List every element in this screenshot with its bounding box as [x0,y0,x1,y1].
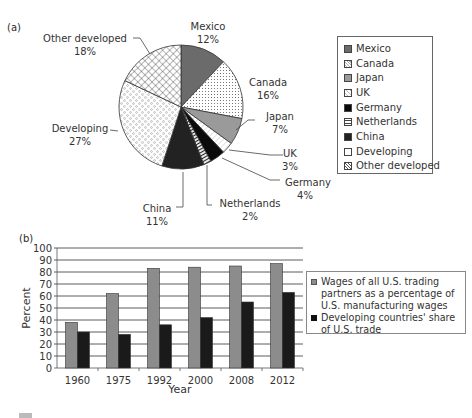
label-developing: Developing [52,123,109,134]
y-axis-label: Percent [20,287,33,329]
legend-item-china: China [344,130,385,143]
y-tick-label: 50 [39,303,52,314]
y-tick-label: 90 [39,255,52,266]
legend-item-wages: Wages of all U.S. trading partners as a … [311,276,461,312]
pct-mexico: 12% [197,34,219,45]
bar-legend: Wages of all U.S. trading partners as a … [306,271,466,334]
label-china: China [143,203,172,214]
bar-series [66,264,295,368]
legend-label: Mexico [356,43,391,54]
legend-label: Canada [356,58,394,69]
legend-item-germany: Germany [344,101,402,114]
y-tick-label: 70 [39,279,52,290]
legend-item-developing: Developing [344,145,413,158]
legend-label: Netherlands [356,116,417,127]
pct-other-developed: 18% [74,46,96,57]
label-japan: Japan [265,111,294,122]
swatch-japan [344,74,352,82]
bar-wages-2008 [230,266,242,368]
legend-item-canada: Canada [344,57,394,70]
swatch-china [344,133,352,141]
pie-slices [119,45,243,169]
label-other-developed: Other developed [43,33,127,44]
pct-netherlands: 2% [242,211,258,222]
pie-legend: Mexico Canada Japan UK Germany Netherlan… [337,36,433,174]
label-canada: Canada [249,77,287,88]
bar-developing-share-2008 [242,302,254,368]
y-tick-label: 60 [39,291,52,302]
swatch-canada [344,60,352,68]
bar-developing-share-1975 [119,334,131,368]
swatch-uk [344,89,352,97]
pct-china: 11% [146,216,168,227]
bar-developing-share-1992 [160,325,172,368]
swatch-germany [344,104,352,112]
y-tick-label: 20 [39,339,52,350]
label-germany: Germany [285,177,331,188]
bar-wages-1960 [66,322,78,368]
bar-wages-2000 [189,267,201,368]
legend-item-uk: UK [344,86,370,99]
bar-developing-share-2012 [283,292,295,368]
legend-label-developing-share: Developing countries' share of U.S. trad… [321,312,461,336]
y-tick-label: 40 [39,315,52,326]
legend-item-developing-share: Developing countries' share of U.S. trad… [311,312,461,336]
pct-canada: 16% [257,90,279,101]
x-tick-label: 2008 [229,375,254,386]
bar-gridlines [54,248,303,371]
legend-item-japan: Japan [344,71,384,84]
y-tick-label: 30 [39,327,52,338]
legend-label: Germany [356,102,402,113]
bar-wages-1992 [148,268,160,368]
label-mexico: Mexico [191,21,226,32]
bar-developing-share-1960 [78,332,90,368]
legend-item-netherlands: Netherlands [344,115,417,128]
bar-developing-share-2000 [201,318,213,368]
y-tick-label: 100 [33,243,52,254]
legend-label: Developing [356,146,413,157]
legend-label: UK [356,87,370,98]
legend-label: Japan [356,72,384,83]
label-netherlands: Netherlands [220,198,281,209]
pct-japan: 7% [272,124,288,135]
legend-label-wages: Wages of all U.S. trading partners as a … [321,276,461,312]
bar-wages-2012 [271,264,283,368]
bar-wages-1975 [107,294,119,368]
legend-label: Other developed [356,160,440,171]
x-tick-label: 1975 [106,375,131,386]
x-tick-label: 1960 [65,375,90,386]
decorative-mark [19,413,32,418]
y-tick-label: 80 [39,267,52,278]
legend-label: China [356,131,385,142]
pct-uk: 3% [282,161,298,172]
y-tick-label: 10 [39,351,52,362]
swatch-netherlands [344,118,352,126]
swatch-developing [344,148,352,156]
legend-item-mexico: Mexico [344,42,391,55]
swatch-other-developed [344,162,352,170]
y-tick-labels: 0102030405060708090100 [33,243,52,374]
swatch-developing-share [311,315,317,321]
x-axis-label: Year [167,383,192,396]
legend-item-other-developed: Other developed [344,159,440,172]
swatch-mexico [344,45,352,53]
x-tick-label: 2012 [270,375,295,386]
swatch-wages [311,279,317,285]
y-tick-label: 0 [46,363,52,374]
label-uk: UK [283,148,297,159]
pct-developing: 27% [69,136,91,147]
pct-germany: 4% [297,190,313,201]
